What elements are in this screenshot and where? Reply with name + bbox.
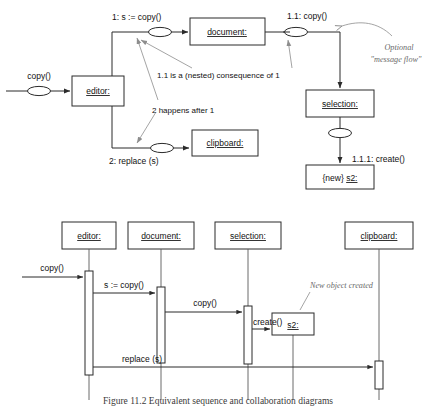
collab-object-clipboard[interactable]: clipboard:	[192, 130, 258, 156]
collab-object-s2-label: s2:	[346, 173, 357, 183]
collab-object-selection-label: selection:	[322, 99, 358, 109]
collab-object-editor-label: editor:	[86, 86, 110, 96]
collab-object-selection[interactable]: selection:	[306, 90, 374, 117]
seq-object-document[interactable]: document:	[128, 222, 194, 249]
seq-message-s-copy-label: s := copy()	[104, 280, 144, 290]
svg-text:{new} s2:: {new} s2:	[323, 173, 358, 183]
collab-message-copy-label: copy()	[27, 71, 51, 81]
seq-object-document-label: document:	[141, 231, 181, 241]
collab-object-s2[interactable]: {new} s2:	[306, 165, 374, 189]
collab-message-1-1-1-label: 1.1.1: create()	[352, 154, 405, 164]
seq-message-replace-label: replace (s)	[122, 354, 162, 364]
seq-activation-clipboard	[375, 361, 383, 389]
seq-object-selection-label: selection:	[230, 231, 266, 241]
seq-message-copy-label: copy()	[40, 263, 64, 273]
collab-message-1-label: 1: s := copy()	[112, 12, 162, 22]
seq-message-create-label: create()	[253, 317, 282, 327]
collab-message-1-1-label: 1.1: copy()	[287, 11, 327, 21]
seq-object-clipboard-label: clipboard:	[361, 231, 398, 241]
collab-object-s2-prefix: {new}	[323, 173, 347, 183]
collab-object-editor[interactable]: editor:	[72, 76, 124, 106]
collab-annotation-leaders	[137, 38, 292, 143]
seq-activation-document	[157, 287, 165, 363]
collab-object-document[interactable]: document:	[190, 18, 265, 45]
figure-caption: Figure 11.2 Equivalent sequence and coll…	[103, 396, 333, 406]
seq-object-s2-label: s2:	[287, 320, 298, 330]
collab-message-flow-arrow	[342, 23, 392, 36]
seq-annotation-leader	[300, 292, 310, 310]
collab-annotation-optional: Optional	[384, 43, 414, 52]
collab-annotation-nested: 1.1 is a (nested) consequence of 1	[157, 71, 280, 80]
seq-object-clipboard[interactable]: clipboard:	[345, 222, 413, 249]
seq-object-editor[interactable]: editor:	[62, 222, 116, 249]
seq-activation-editor	[85, 271, 93, 375]
collab-object-clipboard-label: clipboard:	[207, 138, 244, 148]
seq-activation-selection	[244, 306, 252, 364]
seq-object-selection[interactable]: selection:	[215, 222, 281, 249]
figure-canvas: editor: document: selection:	[0, 0, 437, 406]
collab-link-2	[128, 143, 189, 152]
collab-link-1-1-1	[329, 117, 352, 163]
collab-annotation-ordering: 2 happens after 1	[152, 106, 215, 115]
collab-link-1	[128, 27, 188, 36]
collab-object-document-label: document:	[207, 27, 247, 37]
collab-annotation-message-flow: "message flow"	[371, 55, 422, 64]
seq-message-copy2-label: copy()	[193, 298, 217, 308]
collab-link-incoming	[6, 86, 70, 95]
seq-lifelines	[89, 249, 379, 400]
seq-annotation-new-object: New object created	[309, 281, 374, 290]
collab-message-2-label: 2: replace (s)	[109, 156, 159, 166]
seq-object-editor-label: editor:	[77, 231, 101, 241]
